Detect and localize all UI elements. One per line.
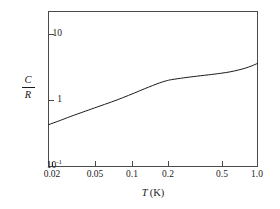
y-axis-ticks bbox=[49, 35, 55, 167]
x-axis-ticks bbox=[53, 161, 258, 167]
y-axis-title: C R bbox=[14, 74, 42, 101]
axis-frame bbox=[48, 11, 258, 167]
y-axis-title-numerator: C bbox=[14, 74, 42, 86]
x-tick-label-0.2: 0.2 bbox=[162, 170, 174, 180]
y-tick-label-10: 10 bbox=[53, 29, 63, 39]
plot-area bbox=[0, 0, 280, 209]
x-axis-title-variable: T bbox=[142, 187, 148, 198]
x-tick-label-0.02: 0.02 bbox=[44, 170, 61, 180]
x-axis-title: T (K) bbox=[142, 187, 165, 198]
x-tick-label-0.5: 0.5 bbox=[216, 170, 228, 180]
y-tick-label-1: 1 bbox=[57, 95, 62, 105]
x-axis-title-unit: (K) bbox=[150, 187, 165, 198]
y-tick-label-exponent: -1 bbox=[56, 158, 62, 166]
chart-figure: 10 1 10-1 0.02 0.05 0.1 0.2 0.5 1.0 T (K… bbox=[0, 0, 280, 209]
data-curve-cr bbox=[49, 63, 258, 124]
x-tick-label-0.05: 0.05 bbox=[87, 170, 104, 180]
x-tick-label-0.1: 0.1 bbox=[126, 170, 138, 180]
y-axis-title-denominator: R bbox=[14, 89, 42, 101]
x-tick-label-1.0: 1.0 bbox=[251, 170, 263, 180]
fraction-bar bbox=[22, 87, 35, 88]
